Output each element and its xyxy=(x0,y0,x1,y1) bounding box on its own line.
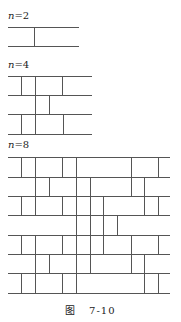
brick-diagram-n2 xyxy=(8,28,79,47)
brick-diagram-n8 xyxy=(8,158,170,294)
caption-prefix: 图 xyxy=(65,305,76,316)
brick-diagram-n4 xyxy=(8,77,92,135)
figure-caption: 图 7-10 xyxy=(0,302,181,317)
caption-number: 7-10 xyxy=(89,305,115,316)
brick-diagram-canvas xyxy=(0,0,181,322)
